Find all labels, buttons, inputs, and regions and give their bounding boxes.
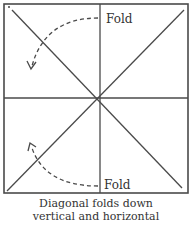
fold-label-top: Fold — [106, 12, 133, 26]
diagonal-crease-b — [7, 10, 184, 191]
fold-label-bottom: Fold — [104, 178, 131, 192]
fold-arrow-bottom — [32, 148, 98, 186]
arrowhead-down-icon — [27, 61, 36, 69]
fold-diagram: Fold Fold — [0, 0, 192, 200]
caption-line-2: vertical and horizontal — [0, 210, 192, 223]
caption-line-1: Diagonal folds down — [0, 197, 192, 210]
corner-dot — [8, 6, 10, 8]
